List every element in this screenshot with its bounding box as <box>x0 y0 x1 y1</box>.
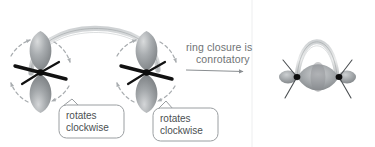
sigma-lens-shading <box>311 62 326 92</box>
reaction-arrow <box>186 70 243 72</box>
left-orbital-lower-lobe <box>30 74 52 113</box>
callout-right-line2: clockwise <box>160 125 203 137</box>
callout-left-line2: clockwise <box>66 122 109 134</box>
reaction-arrow-label-line2: conrotatory <box>196 53 250 65</box>
figure-canvas: ring closure is conrotatory rotates cloc… <box>0 0 375 147</box>
reaction-arrow-label-line1: ring closure is <box>186 41 252 53</box>
left-orbital-node <box>37 69 44 75</box>
left-p-orbital <box>11 31 70 113</box>
product-structure <box>279 42 356 98</box>
callout-right-line1: rotates <box>160 113 191 125</box>
product-right-node <box>336 74 343 80</box>
callout-left-line1: rotates <box>66 110 97 122</box>
right-p-orbital <box>117 31 176 113</box>
right-orbital-lower-lobe <box>136 74 158 113</box>
right-orbital-node <box>143 69 150 75</box>
product-left-node <box>294 74 301 80</box>
